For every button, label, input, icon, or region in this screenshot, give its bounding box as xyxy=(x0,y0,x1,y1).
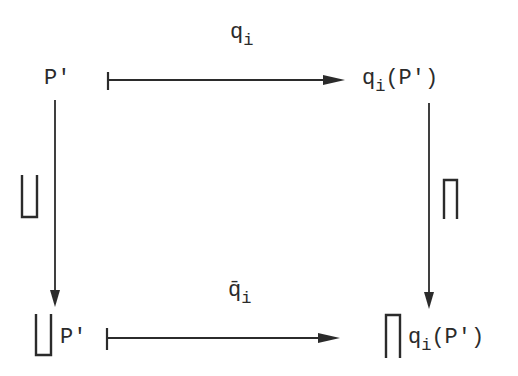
label-subscript: i xyxy=(241,289,251,308)
node-base: P' xyxy=(60,325,86,350)
product-node-icon xyxy=(386,315,400,358)
node-subscript: i xyxy=(421,336,431,355)
label-subscript: i xyxy=(243,31,253,50)
commutative-diagram: P' qi qi(P') P' q̄i qi(P') xyxy=(0,0,518,376)
node-base: q xyxy=(408,325,421,350)
node-bottom-right: qi(P') xyxy=(408,327,484,349)
bottom-arrow xyxy=(107,328,340,350)
left-arrow xyxy=(50,100,60,307)
node-top-left: P' xyxy=(44,68,70,90)
coproduct-node-icon xyxy=(36,314,51,355)
node-top-right: qi(P') xyxy=(362,68,438,90)
node-bottom-left: P' xyxy=(60,327,86,349)
node-subscript: i xyxy=(375,77,385,96)
node-base: q xyxy=(362,66,375,91)
top-arrow-label: qi xyxy=(230,22,253,44)
product-icon xyxy=(444,180,457,219)
coproduct-icon xyxy=(22,175,37,217)
node-top-left-text: P' xyxy=(44,66,70,91)
bottom-arrow-label: q̄i xyxy=(228,280,251,302)
node-argument: (P') xyxy=(385,66,438,91)
arrows-layer xyxy=(0,0,518,376)
label-base: q xyxy=(230,20,243,45)
right-arrow xyxy=(424,103,434,309)
label-base: q̄ xyxy=(228,278,241,303)
node-argument: (P') xyxy=(431,325,484,350)
top-arrow xyxy=(108,72,345,90)
